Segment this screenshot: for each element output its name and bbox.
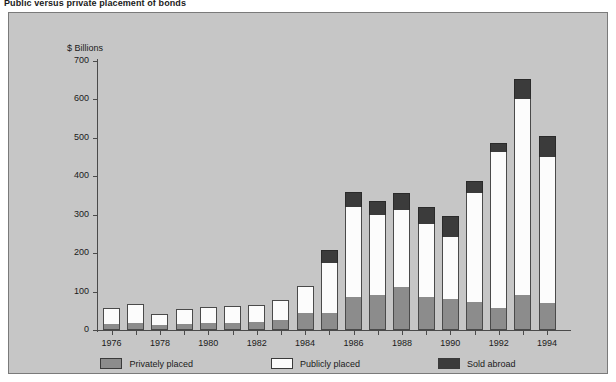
x-tick-label: 1986 — [334, 338, 374, 348]
y-tick-label: 100 — [49, 286, 89, 296]
plot-area — [97, 61, 563, 330]
bar-1988 — [393, 193, 410, 330]
bar-segment-privately-placed — [514, 295, 531, 330]
legend-label: Privately placed — [129, 359, 193, 369]
y-tick-label: 0 — [49, 324, 89, 334]
x-tick-label: 1980 — [188, 338, 228, 348]
bar-segment-sold-abroad — [418, 207, 435, 224]
x-tick-mark — [354, 330, 355, 335]
x-tick-mark — [305, 330, 306, 335]
bar-1982 — [248, 305, 265, 330]
legend-label: Sold abroad — [467, 359, 516, 369]
bar-segment-sold-abroad — [393, 193, 410, 210]
y-tick-label: 700 — [49, 55, 89, 65]
bar-segment-sold-abroad — [490, 143, 507, 153]
x-tick-mark — [257, 330, 258, 335]
bar-1990 — [442, 216, 459, 330]
bar-segment-publicly-placed — [539, 157, 556, 303]
bar-segment-sold-abroad — [442, 216, 459, 237]
x-tick-mark — [499, 330, 500, 335]
bar-segment-publicly-placed — [272, 300, 289, 320]
bar-segment-privately-placed — [151, 325, 168, 330]
x-tick-mark — [208, 330, 209, 335]
y-tick-mark — [93, 330, 98, 331]
x-tick-mark — [475, 330, 476, 335]
x-tick-label: 1990 — [430, 338, 470, 348]
bar-segment-publicly-placed — [127, 304, 144, 323]
bar-segment-privately-placed — [539, 303, 556, 330]
x-tick-mark — [136, 330, 137, 335]
bar-1979 — [176, 309, 193, 331]
x-tick-mark — [112, 330, 113, 335]
x-tick-mark — [160, 330, 161, 335]
bar-segment-publicly-placed — [151, 314, 168, 326]
bar-segment-sold-abroad — [345, 192, 362, 207]
x-tick-label: 1976 — [92, 338, 132, 348]
bar-segment-privately-placed — [103, 324, 120, 330]
y-tick-label: 400 — [49, 170, 89, 180]
bar-1993 — [514, 79, 531, 330]
bar-segment-publicly-placed — [418, 224, 435, 297]
x-tick-mark — [523, 330, 524, 335]
bar-segment-privately-placed — [272, 320, 289, 330]
legend-label: Publicly placed — [300, 359, 360, 369]
x-tick-label: 1978 — [140, 338, 180, 348]
bar-segment-publicly-placed — [176, 309, 193, 324]
bar-segment-publicly-placed — [393, 210, 410, 287]
chart-title: Public versus private placement of bonds — [4, 0, 186, 8]
bar-1987 — [369, 201, 386, 330]
x-tick-label: 1984 — [285, 338, 325, 348]
bar-segment-publicly-placed — [369, 215, 386, 296]
bar-segment-publicly-placed — [442, 237, 459, 298]
y-tick-label: 600 — [49, 93, 89, 103]
x-tick-label: 1988 — [382, 338, 422, 348]
bar-1989 — [418, 207, 435, 330]
x-tick-mark — [426, 330, 427, 335]
bar-segment-publicly-placed — [321, 263, 338, 313]
y-tick-label: 500 — [49, 132, 89, 142]
bar-segment-privately-placed — [393, 287, 410, 330]
bar-1994 — [539, 136, 556, 330]
bar-segment-privately-placed — [248, 322, 265, 330]
bar-segment-privately-placed — [490, 308, 507, 330]
bar-segment-publicly-placed — [345, 207, 362, 297]
bar-segment-privately-placed — [466, 302, 483, 330]
bar-segment-publicly-placed — [466, 193, 483, 303]
bar-segment-publicly-placed — [200, 307, 217, 323]
bar-1978 — [151, 314, 168, 330]
legend-item-privately-placed: Privately placed — [100, 358, 193, 369]
bar-segment-publicly-placed — [514, 99, 531, 295]
legend-swatch-icon — [438, 358, 460, 369]
legend-swatch-icon — [271, 358, 293, 369]
y-tick-label: 300 — [49, 209, 89, 219]
x-tick-mark — [378, 330, 379, 335]
chart-panel: $ Billions 0100200300400500600700 197619… — [8, 12, 608, 374]
x-tick-mark — [329, 330, 330, 335]
bar-segment-sold-abroad — [466, 181, 483, 193]
bar-segment-sold-abroad — [369, 201, 386, 214]
bar-segment-publicly-placed — [490, 152, 507, 308]
bar-segment-privately-placed — [442, 299, 459, 331]
bar-segment-publicly-placed — [224, 306, 241, 323]
x-tick-mark — [233, 330, 234, 335]
x-tick-label: 1982 — [237, 338, 277, 348]
bar-1977 — [127, 304, 144, 330]
x-tick-mark — [402, 330, 403, 335]
bar-segment-publicly-placed — [297, 286, 314, 313]
bar-1985 — [321, 250, 338, 330]
x-tick-mark — [450, 330, 451, 335]
chart-figure: Public versus private placement of bonds… — [0, 0, 616, 382]
bar-segment-privately-placed — [418, 297, 435, 330]
bar-segment-privately-placed — [200, 323, 217, 330]
bar-segment-privately-placed — [127, 323, 144, 330]
chart-legend: Privately placedPublicly placedSold abro… — [9, 358, 607, 369]
legend-swatch-icon — [100, 358, 122, 369]
bar-segment-privately-placed — [345, 297, 362, 330]
bar-1981 — [224, 306, 241, 330]
bar-segment-publicly-placed — [103, 308, 120, 324]
bar-1992 — [490, 143, 507, 330]
bar-segment-privately-placed — [369, 295, 386, 330]
x-tick-mark — [184, 330, 185, 335]
bar-segment-sold-abroad — [514, 79, 531, 99]
bar-1983 — [272, 300, 289, 330]
